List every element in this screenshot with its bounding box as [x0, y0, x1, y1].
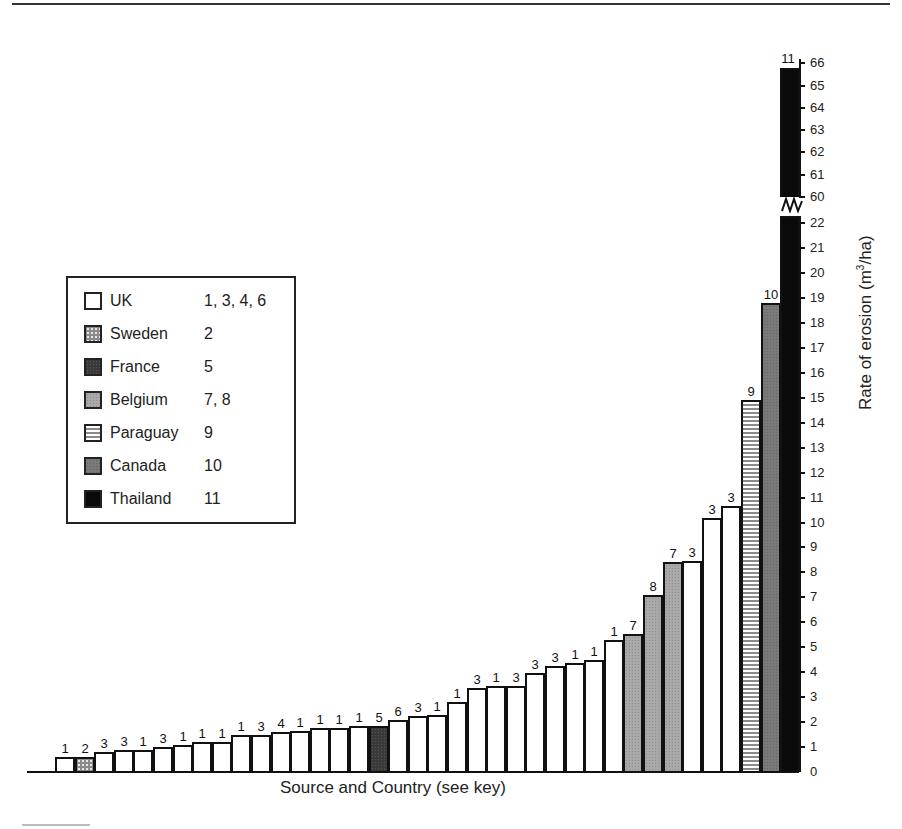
y-tick	[799, 571, 805, 573]
y-tick-label: 0	[810, 765, 817, 779]
y-tick	[799, 107, 805, 109]
y-tick	[799, 174, 805, 176]
y-tick-label: 15	[810, 391, 824, 405]
sweden-swatch-icon	[84, 325, 102, 343]
bar-canada	[761, 303, 781, 772]
y-tick-label: 66	[810, 56, 824, 70]
bar-uk	[310, 728, 330, 772]
y-tick	[799, 397, 805, 399]
france-swatch-icon	[84, 358, 102, 376]
y-axis-line-lower	[799, 216, 801, 772]
bar-uk	[271, 732, 291, 772]
bar-uk	[408, 716, 428, 772]
bar-uk	[114, 750, 134, 772]
y-tick-label: 16	[810, 366, 824, 380]
bar-uk	[467, 688, 487, 772]
legend: UK 1, 3, 4, 6 Sweden 2 France 5 Belgium …	[66, 276, 296, 524]
bar-source-label: 11	[776, 51, 800, 66]
y-tick-label: 21	[810, 241, 824, 255]
y-tick	[799, 129, 805, 131]
bar-uk	[231, 735, 251, 772]
bar-uk	[486, 686, 506, 772]
bar-source-label: 7	[621, 618, 645, 633]
y-tick-label: 65	[810, 79, 824, 93]
y-tick	[799, 322, 805, 324]
y-tick-label: 4	[810, 665, 817, 679]
bar-france	[369, 726, 389, 772]
canada-swatch-icon	[84, 457, 102, 475]
bar-uk	[447, 702, 467, 772]
x-axis-title: Source and Country (see key)	[280, 778, 506, 798]
legend-item-thailand: Thailand 11	[84, 488, 221, 510]
bar-source-label: 1	[445, 686, 469, 701]
bar-uk	[133, 750, 153, 772]
bar-belgium	[643, 595, 663, 772]
y-tick-label: 22	[810, 216, 824, 230]
bar-upper-segment	[780, 68, 800, 197]
y-tick-label: 14	[810, 416, 824, 430]
axis-break-icon	[780, 197, 806, 213]
thailand-swatch-icon	[84, 490, 102, 508]
bar-source-label: 1	[582, 644, 606, 659]
bar-uk	[721, 506, 741, 772]
y-tick-label: 17	[810, 341, 824, 355]
bar-uk	[212, 742, 232, 772]
y-tick-label: 6	[810, 615, 817, 629]
bar-paraguay	[741, 400, 761, 772]
bar-uk	[584, 660, 604, 772]
y-tick	[799, 447, 805, 449]
y-axis-line-upper	[799, 59, 801, 197]
uk-swatch-icon	[84, 292, 102, 310]
bar-uk	[329, 728, 349, 772]
y-tick	[799, 546, 805, 548]
y-tick	[799, 497, 805, 499]
bar-source-label: 8	[641, 579, 665, 594]
y-tick	[799, 62, 805, 64]
y-tick	[799, 85, 805, 87]
bar-uk	[604, 640, 624, 772]
bar-uk	[173, 745, 193, 772]
y-tick	[799, 472, 805, 474]
y-tick-label: 20	[810, 266, 824, 280]
y-tick	[799, 621, 805, 623]
bar-source-label: 9	[739, 384, 763, 399]
y-tick	[799, 372, 805, 374]
y-tick	[799, 347, 805, 349]
bar-lower-segment	[780, 216, 800, 772]
bar-uk	[427, 715, 447, 772]
paraguay-swatch-icon	[84, 424, 102, 442]
bar-uk	[506, 686, 526, 772]
bar-uk	[545, 666, 565, 772]
bar-sweden	[75, 757, 95, 772]
bar-belgium	[663, 562, 683, 772]
bar-uk	[388, 720, 408, 772]
y-tick-label: 5	[810, 640, 817, 654]
y-tick	[799, 222, 805, 224]
bar-uk	[251, 735, 271, 772]
y-tick-label: 63	[810, 123, 824, 137]
y-tick-label: 62	[810, 145, 824, 159]
y-tick-label: 7	[810, 590, 817, 604]
y-tick-label: 13	[810, 441, 824, 455]
bar-belgium	[623, 634, 643, 772]
legend-item-france: France 5	[84, 356, 213, 378]
y-tick	[799, 422, 805, 424]
y-tick-label: 12	[810, 466, 824, 480]
page-top-rule	[12, 3, 890, 5]
erosion-bar-chart: 1233131111341111563113133311178733391011…	[0, 0, 902, 829]
y-tick	[799, 151, 805, 153]
legend-item-canada: Canada 10	[84, 455, 222, 477]
bar-uk	[525, 673, 545, 772]
bar-uk	[682, 561, 702, 772]
x-axis-baseline	[27, 771, 799, 773]
y-tick	[799, 596, 805, 598]
bar-uk	[565, 663, 585, 772]
y-tick	[799, 721, 805, 723]
y-tick-label: 64	[810, 101, 824, 115]
bar-uk	[349, 726, 369, 772]
bar-uk	[290, 731, 310, 772]
y-tick	[799, 247, 805, 249]
y-tick-label: 8	[810, 565, 817, 579]
y-tick-label: 18	[810, 316, 824, 330]
y-tick	[799, 297, 805, 299]
